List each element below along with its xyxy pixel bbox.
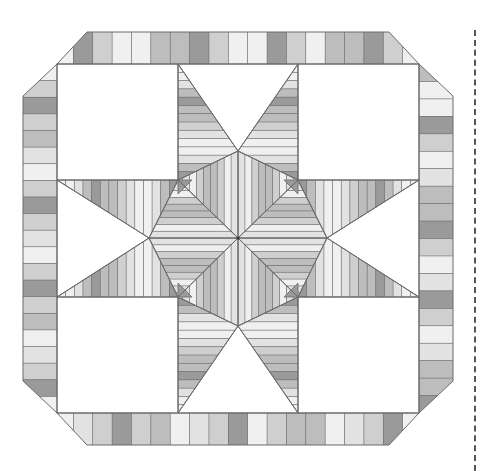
background-square xyxy=(298,297,419,413)
background-square xyxy=(57,297,178,413)
dashed-cut-line xyxy=(474,30,476,471)
center-point xyxy=(237,237,240,240)
quilt-diagram xyxy=(0,0,482,471)
background-square xyxy=(57,64,178,180)
background-square xyxy=(298,64,419,180)
